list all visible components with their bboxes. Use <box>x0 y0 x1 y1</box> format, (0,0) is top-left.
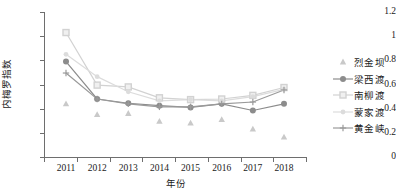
data-point <box>340 92 346 98</box>
data-point <box>126 89 131 94</box>
data-point <box>341 109 346 114</box>
legend-marker-icon <box>332 104 354 120</box>
legend-item-1[interactable]: 烈金坝 <box>332 54 396 71</box>
data-point <box>281 134 287 140</box>
legend-marker-icon <box>332 54 354 70</box>
data-point <box>63 30 69 36</box>
data-point <box>250 126 256 132</box>
data-point <box>340 125 346 131</box>
legend-label: 烈金坝 <box>354 55 385 69</box>
data-point <box>64 52 69 57</box>
data-point <box>125 84 131 90</box>
legend-marker-icon <box>332 71 354 87</box>
legend-item-2[interactable]: 梁西渡 <box>332 71 396 88</box>
legend-marker-icon <box>332 87 354 103</box>
data-point <box>340 76 346 82</box>
data-point <box>250 94 255 99</box>
legend-item-3[interactable]: 南柳渡 <box>332 87 396 104</box>
data-point <box>94 111 100 117</box>
data-point <box>281 101 287 107</box>
legend-label: 蒙家渡 <box>354 105 385 119</box>
data-point <box>250 107 256 113</box>
legend-item-5[interactable]: 黄金峡 <box>332 120 396 137</box>
legend: 烈金坝梁西渡南柳渡蒙家渡黄金峡 <box>332 54 396 137</box>
data-point <box>187 120 193 126</box>
data-point <box>219 116 225 122</box>
data-point <box>125 110 131 116</box>
legend-marker-icon <box>332 120 354 136</box>
data-point <box>95 74 100 79</box>
legend-label: 南柳渡 <box>354 88 385 102</box>
legend-item-4[interactable]: 蒙家渡 <box>332 104 396 121</box>
chart-figure: 00.20.40.60.811.2 2011201220132014201520… <box>0 0 396 196</box>
data-point <box>94 82 100 88</box>
data-point <box>156 118 162 124</box>
data-point <box>340 59 346 65</box>
data-point <box>250 99 256 105</box>
legend-label: 黄金峡 <box>354 121 385 135</box>
data-point <box>188 97 193 102</box>
data-point <box>63 100 69 106</box>
legend-label: 梁西渡 <box>354 72 385 86</box>
data-point <box>157 98 162 103</box>
data-point <box>63 59 69 65</box>
series-line <box>66 33 284 100</box>
